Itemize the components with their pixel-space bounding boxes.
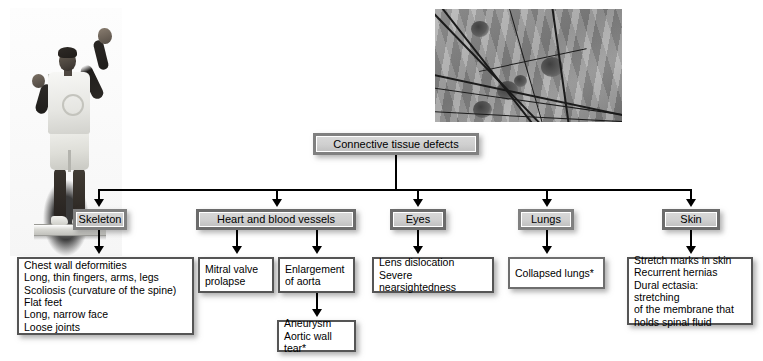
detail-text: Stretch marks in skin Recurrent hernias … (634, 254, 746, 328)
detail-text: Aneurysm Aortic wall tear* (284, 317, 349, 354)
node-label: Skin (680, 213, 701, 226)
node-connective-tissue-defects[interactable]: Connective tissue defects (313, 133, 479, 155)
connector-bus (98, 189, 692, 191)
detail-mitral-valve-prolapse[interactable]: Mitral valve prolapse (198, 257, 274, 293)
node-lungs[interactable]: Lungs (518, 209, 574, 230)
detail-eyes[interactable]: Lens dislocation Severe nearsightedness (372, 257, 494, 293)
detail-lungs[interactable]: Collapsed lungs* (508, 257, 605, 289)
arrow-lungs (542, 199, 552, 207)
node-label: Connective tissue defects (333, 138, 458, 151)
node-label: Heart and blood vessels (217, 213, 335, 226)
detail-text: Chest wall deformities Long, thin finger… (24, 259, 187, 333)
detail-enlargement-of-aorta[interactable]: Enlargement of aorta (278, 257, 355, 293)
detail-text: Collapsed lungs* (515, 267, 598, 279)
arrow-heart-aorta (312, 246, 322, 254)
micrograph (435, 9, 622, 122)
arrow-skin (686, 199, 696, 207)
arrow-skin-details (686, 246, 696, 254)
arrow-eyes (413, 199, 423, 207)
detail-text: Mitral valve prolapse (205, 263, 267, 288)
arrow-aorta-aneurysm (312, 309, 322, 317)
arrow-lungs-details (542, 246, 552, 254)
node-eyes[interactable]: Eyes (390, 209, 446, 230)
connector-root-stem (395, 155, 397, 190)
node-skeleton[interactable]: Skeleton (73, 209, 127, 230)
node-heart-and-blood-vessels[interactable]: Heart and blood vessels (196, 209, 356, 230)
detail-skeleton[interactable]: Chest wall deformities Long, thin finger… (17, 257, 194, 335)
node-label: Skeleton (79, 213, 122, 226)
arrow-heart-mitral (232, 246, 242, 254)
node-label: Lungs (531, 213, 561, 226)
arrow-skeleton (94, 199, 104, 207)
detail-text: Lens dislocation Severe nearsightedness (379, 256, 487, 293)
diagram-canvas: Connective tissue defects Skeleton Heart… (0, 0, 763, 361)
arrow-skeleton-details (94, 246, 104, 254)
arrow-eyes-details (413, 246, 423, 254)
detail-aneurysm[interactable]: Aneurysm Aortic wall tear* (277, 320, 356, 352)
node-label: Eyes (406, 213, 430, 226)
node-skin[interactable]: Skin (662, 209, 720, 230)
arrow-heart (272, 199, 282, 207)
detail-text: Enlargement of aorta (285, 263, 348, 288)
detail-skin[interactable]: Stretch marks in skin Recurrent hernias … (627, 257, 753, 325)
